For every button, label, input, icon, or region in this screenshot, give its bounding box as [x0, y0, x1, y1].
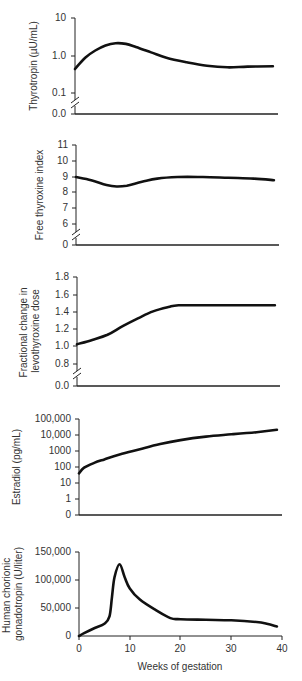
panel-thyrotropin: Thyrotropin (µU/mL) 10 1.0 0.1 0.0 [28, 12, 278, 119]
thyrotropin-curve [75, 43, 273, 69]
y-tick: 10 [57, 155, 69, 166]
x-axis-title: Weeks of gestation [138, 661, 223, 672]
gestation-hormone-figure: Thyrotropin (µU/mL) 10 1.0 0.1 0.0 Free … [0, 0, 302, 681]
y-tick: 1.6 [55, 289, 69, 300]
y-axis-title-levothyroxine: Fractional change in levothyroxine dose [18, 285, 41, 378]
y-tick: 9 [62, 171, 68, 182]
y-tick: 0.0 [52, 108, 66, 119]
x-tick: 0 [76, 643, 82, 654]
free-thyroxine-curve [76, 177, 274, 187]
y-axis-title-estradiol: Estradiol (pg/mL) [11, 429, 22, 505]
panel-hcg: Human chorionic gonadotropin (U/liter) 1… [1, 546, 288, 672]
panel-levothyroxine: Fractional change in levothyroxine dose … [18, 271, 280, 391]
y-tick: 1.8 [55, 271, 69, 282]
y-tick: 50,000 [40, 602, 71, 613]
y-tick: 6 [62, 218, 68, 229]
y-axis-title-line2: gonadotropin (U/liter) [13, 547, 24, 641]
x-tick: 30 [225, 643, 237, 654]
y-tick: 0.1 [52, 87, 66, 98]
y-tick: 0 [62, 239, 68, 250]
y-tick: 100,000 [35, 413, 72, 424]
y-tick: 11 [58, 139, 69, 150]
y-tick: 1000 [49, 445, 72, 456]
y-axis-title-thyrotropin: Thyrotropin (µU/mL) [28, 21, 39, 111]
y-tick: 0 [65, 509, 71, 520]
levothyroxine-curve [77, 305, 275, 344]
panel-estradiol: Estradiol (pg/mL) 100,000 10,000 1000 10… [11, 413, 282, 520]
x-tick: 10 [124, 643, 136, 654]
y-tick: 1.0 [52, 50, 66, 61]
y-tick: 0.0 [55, 380, 69, 391]
y-axis-title-line1: Human chorionic [1, 558, 12, 633]
y-axis-title-line1: Fractional change in [18, 287, 29, 377]
x-tick: 20 [174, 643, 186, 654]
y-tick: 10 [55, 12, 67, 23]
y-tick: 100,000 [35, 574, 72, 585]
y-tick: 7 [62, 202, 68, 213]
y-tick: 1.0 [55, 340, 69, 351]
y-tick: 150,000 [35, 546, 72, 557]
estradiol-curve [79, 430, 277, 474]
y-tick: 1 [65, 493, 71, 504]
hcg-curve [79, 564, 277, 636]
y-tick: 1.4 [55, 306, 69, 317]
panel-free-thyroxine: Free thyroxine index 11 10 9 8 7 6 0 [34, 139, 279, 250]
y-tick: 0.8 [55, 358, 69, 369]
y-tick: 100 [54, 461, 71, 472]
y-axis-title-fti: Free thyroxine index [34, 150, 45, 241]
y-tick: 1.2 [55, 323, 69, 334]
y-axis-title-hcg: Human chorionic gonadotropin (U/liter) [1, 547, 24, 641]
x-tick: 40 [276, 643, 288, 654]
y-tick: 10 [60, 477, 72, 488]
y-tick: 0 [65, 630, 71, 641]
y-axis-title-line2: levothyroxine dose [30, 289, 41, 373]
y-tick: 8 [62, 186, 68, 197]
y-tick: 10,000 [40, 429, 71, 440]
